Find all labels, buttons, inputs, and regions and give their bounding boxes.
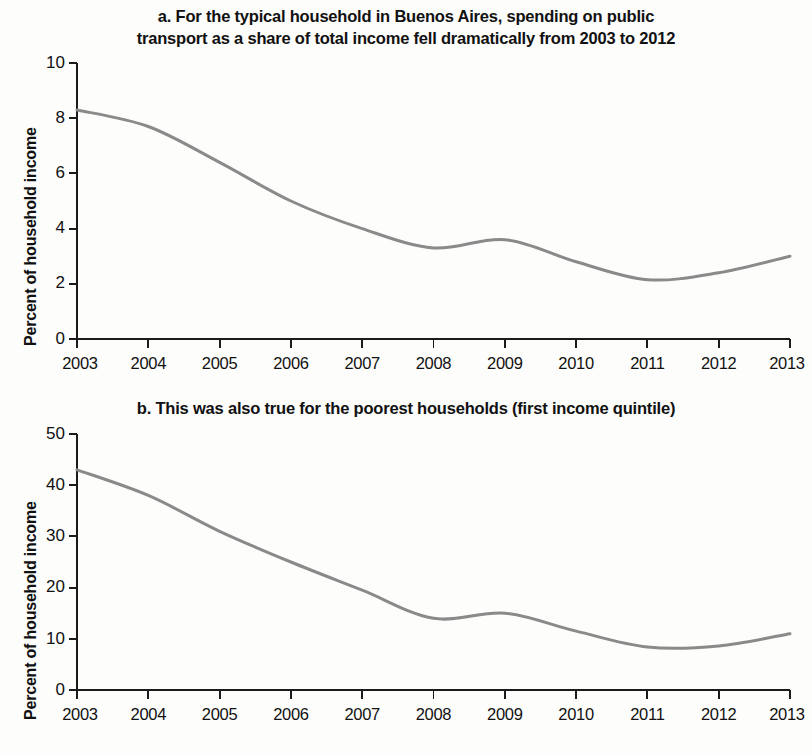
y-tick-label: 50 xyxy=(25,425,65,442)
x-tick-label: 2008 xyxy=(404,706,464,723)
x-tick-label: 2010 xyxy=(546,355,606,372)
figure-page: a. For the typical household in Buenos A… xyxy=(0,0,812,755)
x-tick-label: 2004 xyxy=(118,706,178,723)
x-tick-label: 2005 xyxy=(190,706,250,723)
x-tick-label: 2013 xyxy=(757,706,812,723)
y-tick-label: 20 xyxy=(25,578,65,595)
x-tick-label: 2006 xyxy=(261,355,321,372)
y-tick-label: 30 xyxy=(25,527,65,544)
x-tick-label: 2010 xyxy=(546,706,606,723)
y-tick-label: 10 xyxy=(25,54,65,71)
x-tick-label: 2007 xyxy=(332,706,392,723)
data-line-svg-a xyxy=(77,109,790,279)
panel-a-title: a. For the typical household in Buenos A… xyxy=(0,0,812,50)
y-tick-label: 2 xyxy=(25,274,65,291)
x-tick-label: 2003 xyxy=(50,706,110,723)
y-tick-label: 40 xyxy=(25,476,65,493)
panel-a-title-line2: transport as a share of total income fel… xyxy=(137,29,676,47)
panel-b-title: b. This was also true for the poorest ho… xyxy=(0,392,812,420)
chart-a-canvas xyxy=(0,50,812,380)
x-tick-label: 2012 xyxy=(689,706,749,723)
x-tick-label: 2013 xyxy=(757,355,812,372)
y-tick-label: 0 xyxy=(25,681,65,698)
y-tick-label: 0 xyxy=(25,330,65,347)
x-tick-label: 2009 xyxy=(475,355,535,372)
y-tick-label: 4 xyxy=(25,219,65,236)
y-tick-label: 6 xyxy=(25,164,65,181)
x-tick-label: 2011 xyxy=(617,355,677,372)
data-line-svg-b xyxy=(77,470,790,649)
chart-panel-b: b. This was also true for the poorest ho… xyxy=(0,392,812,755)
chart-b-canvas xyxy=(0,420,812,750)
x-tick-label: 2012 xyxy=(689,355,749,372)
x-tick-label: 2007 xyxy=(332,355,392,372)
plot-area-b: Percent of household income 010203040502… xyxy=(0,420,812,750)
y-tick-label: 10 xyxy=(25,630,65,647)
x-tick-label: 2011 xyxy=(617,706,677,723)
plot-area-a: Percent of household income 024681020032… xyxy=(0,50,812,380)
x-tick-label: 2004 xyxy=(118,355,178,372)
chart-panel-a: a. For the typical household in Buenos A… xyxy=(0,0,812,392)
x-tick-label: 2003 xyxy=(50,355,110,372)
x-tick-label: 2006 xyxy=(261,706,321,723)
y-tick-label: 8 xyxy=(25,109,65,126)
x-tick-label: 2008 xyxy=(404,355,464,372)
panel-a-title-line1: a. For the typical household in Buenos A… xyxy=(158,7,654,25)
x-tick-label: 2009 xyxy=(475,706,535,723)
x-tick-label: 2005 xyxy=(190,355,250,372)
